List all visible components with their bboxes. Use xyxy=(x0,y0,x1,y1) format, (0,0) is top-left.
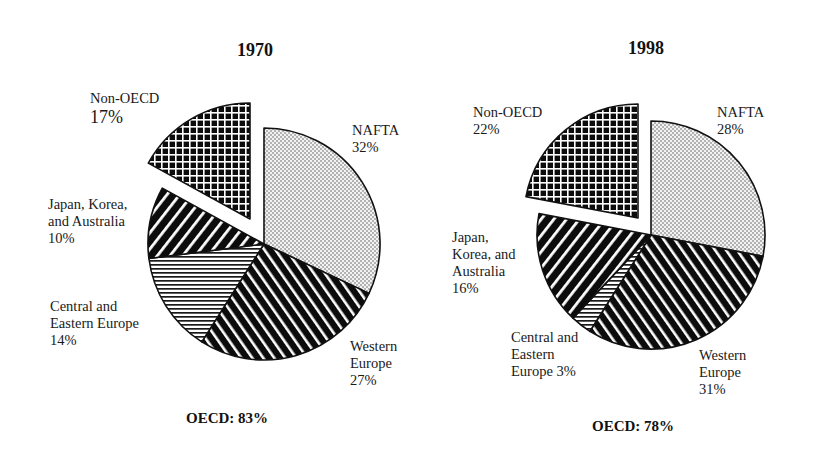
pie-slice-nafta xyxy=(651,121,765,256)
label-nafta-1970: NAFTA 32% xyxy=(352,122,399,156)
chart-title-1998: 1998 xyxy=(628,38,664,59)
label-central-eastern-europe-1970: Central and Eastern Europe 14% xyxy=(50,298,139,349)
label-japan-korea-australia-1970: Japan, Korea, and Australia 10% xyxy=(48,196,127,247)
oecd-total-1998: OECD: 78% xyxy=(592,418,674,435)
label-nafta-1998: NAFTA 28% xyxy=(717,104,764,138)
oecd-total-1970: OECD: 83% xyxy=(186,410,268,427)
pie-1970 xyxy=(148,103,380,360)
label-central-eastern-europe-1998: Central and Eastern Europe 3% xyxy=(511,329,578,380)
chart-title-1970: 1970 xyxy=(237,40,273,61)
label-non-oecd-1970: Non-OECD 17% xyxy=(90,90,159,127)
pie-1998 xyxy=(526,104,765,349)
label-non-oecd-1998: Non-OECD 22% xyxy=(473,104,542,138)
pie-slice-non-oecd xyxy=(526,104,638,218)
label-western-europe-1998: Western Europe 31% xyxy=(699,347,746,398)
label-western-europe-1970: Western Europe 27% xyxy=(350,338,397,389)
label-japan-korea-australia-1998: Japan, Korea, and Australia 16% xyxy=(452,229,516,297)
